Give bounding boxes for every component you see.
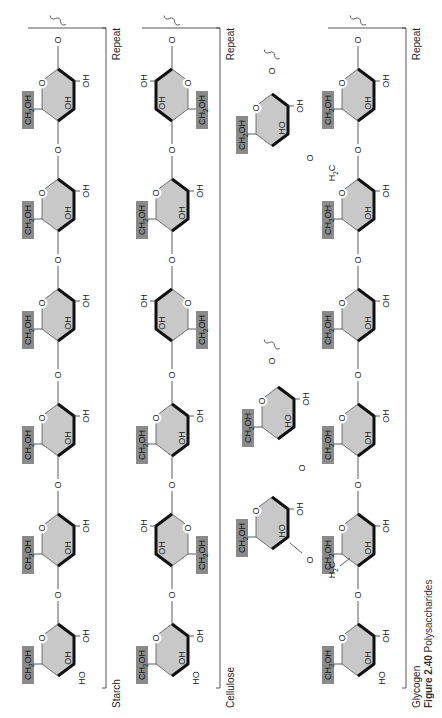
row-label: Cellulose bbox=[225, 666, 236, 708]
glycosidic-oxygen-label: O bbox=[167, 36, 177, 43]
hydroxyl-label: HO bbox=[277, 121, 287, 135]
row-glycogen: OCH2OHOHOHOOCH2OHOHOHOOCH2OHOHOHOOCH2OHO… bbox=[322, 14, 422, 708]
glucose-unit: OCH2OHOHOH bbox=[136, 179, 205, 239]
hydroxyl-label: OH bbox=[63, 651, 73, 665]
glycosidic-oxygen-label: O bbox=[53, 146, 63, 153]
glycosidic-oxygen-label: O bbox=[167, 256, 177, 263]
glucose-unit: OCH2OHOHOH bbox=[22, 514, 91, 574]
glycosidic-oxygen-label: O bbox=[53, 371, 63, 378]
ring-oxygen-label: O bbox=[37, 414, 47, 421]
row-label: Starch bbox=[111, 679, 122, 708]
glycosidic-oxygen-label: O bbox=[53, 36, 63, 43]
hydroxyl-label: OH bbox=[157, 96, 167, 110]
glycosidic-oxygen-label: O bbox=[167, 481, 177, 488]
hydroxyl-label: OH bbox=[177, 206, 187, 220]
hydroxyl-label: OH bbox=[195, 184, 205, 198]
hydroxyl-label: OH bbox=[363, 651, 373, 665]
ring-oxygen-label: O bbox=[37, 79, 47, 86]
terminal-hydroxyl-label: HO bbox=[377, 671, 387, 685]
hydroxyl-label: OH bbox=[381, 74, 391, 88]
glucose-unit: OCH2OHOHOH bbox=[322, 179, 391, 239]
terminal-hydroxyl-label: HO bbox=[191, 671, 201, 685]
glucose-unit-branch: OCH2OHHOOH bbox=[242, 387, 311, 447]
hydroxyl-label: OH bbox=[381, 629, 391, 643]
hydroxyl-label: OH bbox=[81, 74, 91, 88]
glucose-unit: OCH2OHOHOH bbox=[136, 404, 205, 464]
ring-oxygen-label: O bbox=[183, 79, 193, 86]
figure-svg: OCH2OHOHOHOOCH2OHOHOHOOCH2OHOHOHOOCH2OHO… bbox=[0, 0, 442, 718]
hydroxyl-label: OH bbox=[381, 519, 391, 533]
hydroxyl-label: OH bbox=[81, 294, 91, 308]
glucose-unit: OCH2OHOHOH bbox=[139, 69, 209, 129]
glycosidic-oxygen-label: O bbox=[53, 481, 63, 488]
ring-oxygen-label: O bbox=[251, 104, 261, 111]
glucose-unit: OCH2OHOHOH bbox=[322, 404, 391, 464]
hydroxyl-label: OH bbox=[195, 409, 205, 423]
hydroxyl-label: OH bbox=[381, 294, 391, 308]
ring-oxygen-label: O bbox=[37, 189, 47, 196]
hydroxyl-label: OH bbox=[81, 184, 91, 198]
glycosidic-oxygen-label: O bbox=[353, 591, 363, 598]
ring-oxygen-label: O bbox=[337, 299, 347, 306]
ring-oxygen-label: O bbox=[37, 524, 47, 531]
hydroxyl-label: HO bbox=[283, 414, 293, 428]
hydroxyl-label: OH bbox=[63, 431, 73, 445]
ring-oxygen-label: O bbox=[257, 397, 267, 404]
glycosidic-oxygen-label: O bbox=[267, 357, 277, 364]
ring-oxygen-label: O bbox=[337, 189, 347, 196]
glucose-unit-branch: OCH2OHHOOH bbox=[236, 94, 305, 154]
glucose-unit: OCH2OHOHOH bbox=[22, 404, 91, 464]
hydroxyl-label: HO bbox=[277, 524, 287, 538]
hydroxyl-label: OH bbox=[301, 392, 311, 406]
glucose-unit: OCH2OHOHOH bbox=[22, 289, 91, 349]
hydroxyl-label: OH bbox=[157, 541, 167, 555]
hydroxyl-label: OH bbox=[139, 294, 149, 308]
repeat-label: Repeat bbox=[225, 28, 236, 60]
ring-oxygen-label: O bbox=[337, 414, 347, 421]
glucose-unit: OCH2OHOHOH bbox=[139, 514, 209, 574]
ring-oxygen-label: O bbox=[337, 524, 347, 531]
glycosidic-oxygen-label: O bbox=[353, 256, 363, 263]
hydroxyl-label: OH bbox=[295, 502, 305, 516]
repeat-label: Repeat bbox=[411, 28, 422, 60]
hydroxyl-label: OH bbox=[381, 409, 391, 423]
hydroxyl-label: OH bbox=[363, 541, 373, 555]
glucose-unit-branch: OCH2OHHOOH bbox=[236, 497, 305, 557]
glycosidic-oxygen-label: O bbox=[167, 371, 177, 378]
glycosidic-oxygen-label: O bbox=[353, 481, 363, 488]
hydroxyl-label: OH bbox=[363, 206, 373, 220]
hydroxyl-label: OH bbox=[81, 629, 91, 643]
hydroxyl-label: OH bbox=[63, 541, 73, 555]
glycosidic-oxygen-label: O bbox=[353, 371, 363, 378]
ring-oxygen-label: O bbox=[337, 634, 347, 641]
glycosidic-oxygen-label: O bbox=[305, 154, 315, 161]
repeat-label: Repeat bbox=[111, 28, 122, 60]
glycosidic-oxygen-label: O bbox=[53, 256, 63, 263]
ring-oxygen-label: O bbox=[183, 524, 193, 531]
row-label: Glycogen bbox=[411, 666, 422, 708]
ring-oxygen-label: O bbox=[37, 299, 47, 306]
ring-oxygen-label: O bbox=[183, 299, 193, 306]
h2c-branch-label: H2C bbox=[327, 164, 339, 181]
glycosidic-oxygen-label: O bbox=[353, 146, 363, 153]
ring-oxygen-label: O bbox=[151, 414, 161, 421]
glucose-unit: OCH2OHOHOH bbox=[22, 179, 91, 239]
glucose-unit: OCH2OHOHOH bbox=[139, 289, 209, 349]
hydroxyl-label: OH bbox=[139, 74, 149, 88]
ring-oxygen-label: O bbox=[151, 189, 161, 196]
terminal-hydroxyl-label: HO bbox=[77, 671, 87, 685]
glycosidic-oxygen-label: O bbox=[305, 556, 315, 563]
hydroxyl-label: OH bbox=[295, 99, 305, 113]
hydroxyl-label: OH bbox=[363, 431, 373, 445]
hydroxyl-label: OH bbox=[157, 316, 167, 330]
glycosidic-oxygen-label: O bbox=[267, 67, 277, 74]
hydroxyl-label: OH bbox=[363, 96, 373, 110]
glycosidic-oxygen-label: O bbox=[297, 464, 307, 471]
hydroxyl-label: OH bbox=[381, 184, 391, 198]
glycosidic-oxygen-label: O bbox=[53, 591, 63, 598]
glycosidic-oxygen-label: O bbox=[167, 591, 177, 598]
hydroxyl-label: OH bbox=[81, 409, 91, 423]
hydroxyl-label: OH bbox=[139, 519, 149, 533]
hydroxyl-label: OH bbox=[81, 519, 91, 533]
glucose-unit: OCH2OHOHOH bbox=[322, 289, 391, 349]
